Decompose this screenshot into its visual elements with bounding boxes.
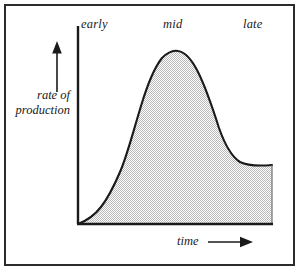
y-axis-label-line-1: rate of [0, 88, 70, 103]
phase-label-early: early [81, 17, 108, 32]
y-axis-up-arrow-icon [52, 41, 62, 92]
y-axis-label: rate of production [0, 88, 70, 118]
x-axis-label-group: time [177, 234, 255, 249]
x-axis-label: time [177, 234, 199, 249]
production-rate-figure: early mid late rate of production time [0, 0, 301, 272]
x-axis-right-arrow-icon [207, 236, 255, 248]
phase-label-late: late [243, 17, 263, 32]
phase-label-mid: mid [163, 17, 182, 32]
y-axis-label-line-2: production [0, 103, 70, 118]
plot-area [0, 0, 301, 272]
